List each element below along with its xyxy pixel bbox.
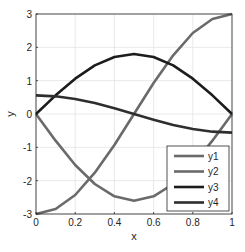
legend-label-y4: y4 xyxy=(208,197,219,208)
x-tick-label: 1 xyxy=(229,217,235,228)
y-tick-label: 0 xyxy=(26,109,32,120)
line-chart: 00.20.40.60.81 -3-2-10123 x y y1y2y3y4 xyxy=(0,0,245,252)
y-tick-label: -1 xyxy=(23,142,32,153)
x-tick-label: 0.4 xyxy=(107,217,121,228)
legend-label-y2: y2 xyxy=(208,166,219,177)
y-tick-label: -3 xyxy=(23,209,32,220)
legend: y1y2y3y4 xyxy=(167,146,229,211)
y-tick-label: 3 xyxy=(26,9,32,20)
y-axis-label: y xyxy=(4,111,16,117)
legend-label-y3: y3 xyxy=(208,182,219,193)
x-tick-label: 0 xyxy=(33,217,39,228)
y-tick-label: 1 xyxy=(26,76,32,87)
x-axis-label: x xyxy=(131,230,137,242)
x-tick-label: 0.6 xyxy=(147,217,161,228)
x-tick-label: 0.2 xyxy=(68,217,82,228)
y-tick-label: -2 xyxy=(23,176,32,187)
y-tick-label: 2 xyxy=(26,42,32,53)
legend-label-y1: y1 xyxy=(208,151,219,162)
x-tick-label: 0.8 xyxy=(186,217,200,228)
